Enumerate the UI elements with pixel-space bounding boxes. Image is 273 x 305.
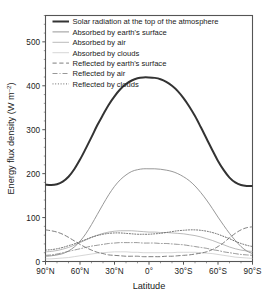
legend-label: Absorbed by earth's surface	[73, 28, 167, 37]
x-tick-label: 0°	[145, 267, 153, 276]
y-tick-label: 500	[26, 38, 40, 47]
x-tick-label: 30°N	[105, 267, 123, 276]
legend-label: Absorbed by clouds	[73, 49, 140, 58]
legend-label: Reflected by clouds	[73, 80, 139, 89]
x-tick-label: 90°S	[244, 267, 262, 276]
legend-label: Solar radiation at the top of the atmosp…	[73, 17, 219, 26]
svg-text:Energy flux density (W m–2): Energy flux density (W m–2)	[5, 82, 16, 194]
legend-label: Reflected by air	[73, 69, 126, 78]
chart-figure: 010020030040050090°N60°N30°N0°30°S60°S90…	[0, 0, 273, 305]
y-tick-label: 100	[26, 214, 40, 223]
x-axis-title: Latitude	[133, 281, 166, 291]
y-axis: 0100200300400500	[26, 16, 45, 267]
series-line	[46, 252, 253, 259]
x-tick-label: 30°S	[175, 267, 193, 276]
series-line	[46, 227, 253, 257]
x-axis: 90°N60°N30°N0°30°S60°S90°S	[36, 262, 262, 276]
series-line	[46, 230, 253, 250]
series-container	[46, 77, 253, 259]
energy-flux-density-line-chart: 010020030040050090°N60°N30°N0°30°S60°S90…	[0, 0, 273, 305]
y-axis-title: Energy flux density (W m–2)	[5, 82, 16, 194]
y-tick-label: 0	[35, 258, 40, 267]
x-tick-label: 60°S	[209, 267, 227, 276]
x-tick-label: 60°N	[71, 267, 89, 276]
x-tick-label: 90°N	[36, 267, 54, 276]
y-tick-label: 400	[26, 82, 40, 91]
legend-label: Reflected by earth's surface	[73, 59, 167, 68]
legend-label: Absorbed by air	[73, 38, 127, 47]
series-line	[46, 77, 253, 186]
y-tick-label: 300	[26, 126, 40, 135]
y-tick-label: 200	[26, 170, 40, 179]
